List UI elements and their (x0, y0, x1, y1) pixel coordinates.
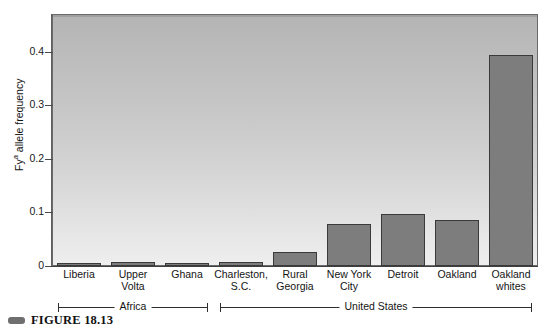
bar (327, 224, 371, 266)
group-bracket-1: United States (220, 303, 532, 312)
caption-bullet-icon (8, 317, 25, 324)
group-bracket-cap-right (531, 303, 532, 312)
y-tick-label-1: 0.1 (10, 206, 44, 216)
group-bracket-0: Africa (58, 303, 208, 312)
figure-caption: FIGURE 18.13 (8, 313, 113, 328)
bar (111, 262, 155, 266)
y-axis-title-superscript: a (11, 155, 20, 159)
y-axis-title: Fya allele frequency (11, 45, 25, 205)
x-tick-label: Oakland whites (469, 269, 552, 292)
y-axis-title-base: Fy (13, 159, 25, 171)
bar (435, 220, 479, 266)
bar (57, 263, 101, 266)
group-bracket-label: Africa (115, 300, 152, 312)
caption-label: FIGURE 18.13 (31, 313, 113, 328)
bar (219, 262, 263, 266)
bar (381, 214, 425, 266)
bar (165, 263, 209, 266)
group-bracket-cap-left (220, 303, 221, 312)
bar (489, 55, 533, 266)
group-bracket-label: United States (339, 300, 412, 312)
group-bracket-cap-left (58, 303, 59, 312)
bar (273, 252, 317, 266)
y-axis-title-rest: allele frequency (13, 79, 25, 155)
figure-container: 00.10.20.30.4 Fya allele frequency Liber… (0, 0, 552, 332)
y-axis-line (51, 14, 52, 267)
x-axis-line (51, 266, 538, 267)
group-bracket-cap-right (207, 303, 208, 312)
